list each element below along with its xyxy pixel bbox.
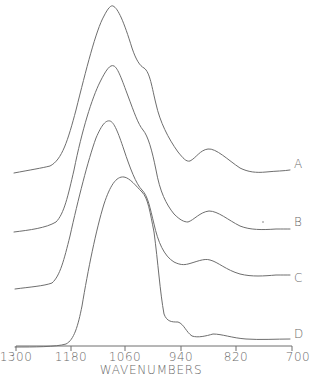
x-axis: 1300 1180 1060 940 820 700 WAVENUMBERS [0,346,310,377]
series-label-a: A [294,157,302,171]
x-tick-label-1300: 1300 [0,350,32,364]
series-label-c: C [294,271,302,285]
x-axis-title: WAVENUMBERS [100,363,203,377]
x-tick-label-700: 700 [286,350,310,364]
series-labels: A B C D [294,157,303,341]
x-tick-label-940: 940 [169,350,193,364]
x-tick-label-820: 820 [224,350,248,364]
stray-dot [262,221,264,223]
trace-d [15,177,290,347]
spectra-traces [14,6,290,347]
series-label-d: D [294,327,303,341]
ir-spectra-chart: A B C D 1300 1180 1060 940 820 700 WAVEN… [0,0,320,379]
x-tick-label-1180: 1180 [55,350,88,364]
trace-b [14,66,290,232]
trace-c [15,121,290,289]
x-tick-label-1060: 1060 [109,350,142,364]
series-label-b: B [294,215,302,229]
trace-a [14,6,290,173]
